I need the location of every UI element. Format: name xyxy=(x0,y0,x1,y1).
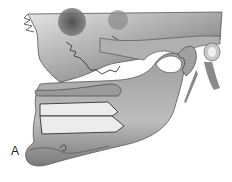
mastoid-process xyxy=(204,62,220,90)
orbit-cavity-right xyxy=(108,10,128,30)
orbit-cavity xyxy=(58,8,86,36)
lower-block xyxy=(40,116,124,134)
skull-illustration xyxy=(0,0,232,182)
panel-label: A xyxy=(11,145,19,157)
upper-block xyxy=(40,102,118,116)
